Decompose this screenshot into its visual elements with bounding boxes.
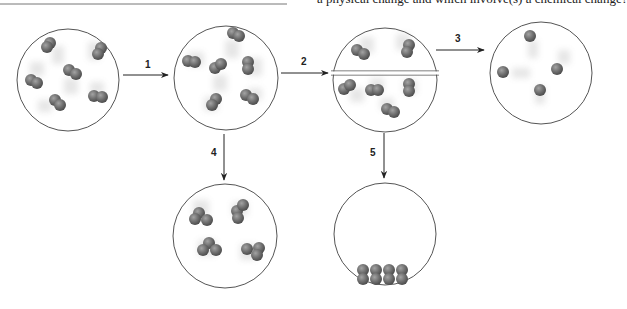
- arrow-3-label: 3: [455, 33, 461, 44]
- arrow-2-label: 2: [301, 56, 307, 67]
- molecule-icon: [189, 199, 265, 261]
- arrow-1-label: 1: [145, 59, 151, 70]
- state-after-4-container: [173, 184, 277, 288]
- atom-icon: [497, 30, 563, 96]
- state-after-5-container: [334, 183, 436, 285]
- molecule-icon: [182, 27, 259, 111]
- arrow-5-label: 5: [370, 147, 376, 158]
- atom-icon: [357, 264, 408, 285]
- initial-state-container: [17, 29, 119, 131]
- state-after-3-container: [490, 22, 592, 124]
- state-after-2-container: [331, 28, 439, 132]
- state-after-1-container: [174, 26, 278, 130]
- arrow-4-label: 4: [211, 147, 217, 158]
